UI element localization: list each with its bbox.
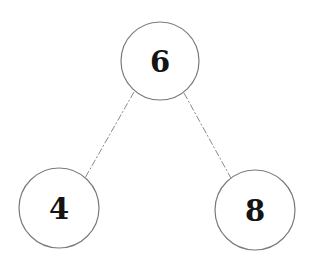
node-right: 8 — [215, 170, 295, 250]
edge-root-right — [184, 93, 232, 180]
binary-tree-diagram: 6 4 8 — [0, 0, 311, 265]
node-left: 4 — [19, 168, 99, 248]
edge-root-left — [85, 92, 134, 178]
edges — [85, 92, 232, 180]
node-right-label: 8 — [245, 194, 265, 228]
node-root-label: 6 — [150, 45, 170, 79]
node-root: 6 — [121, 22, 199, 100]
node-left-label: 4 — [49, 192, 69, 226]
